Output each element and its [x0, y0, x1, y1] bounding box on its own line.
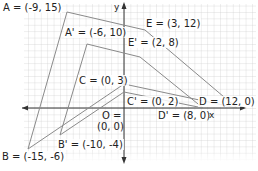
grid: [24, 4, 256, 161]
label-point-E: E = (3, 12): [145, 18, 201, 29]
label-point-C-prime: C' = (0, 2): [126, 96, 179, 107]
coordinate-plane-diagram: A = (-9, 15) B = (-15, -6) C = (0, 3) D …: [0, 0, 258, 171]
label-point-B-prime: B' = (-10, -4): [57, 139, 124, 150]
label-origin-line2: (0, 0): [96, 121, 125, 132]
label-point-D-prime: D' = (8, 0): [157, 110, 211, 121]
label-origin-line1: O =: [101, 110, 122, 121]
y-axis-label: y: [114, 3, 119, 12]
label-point-A-prime: A' = (-6, 10): [64, 27, 127, 38]
label-point-E-prime: E' = (2, 8): [127, 37, 180, 48]
label-point-A: A = (-9, 15): [2, 2, 62, 13]
label-point-C: C = (0, 3): [78, 75, 129, 86]
label-point-B: B = (-15, -6): [1, 151, 65, 162]
label-point-D: D = (12, 0): [198, 96, 256, 107]
x-axis-label: x: [209, 111, 214, 120]
grid-and-figures: [0, 0, 258, 171]
